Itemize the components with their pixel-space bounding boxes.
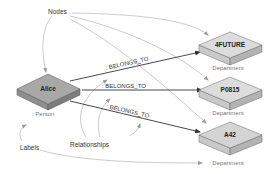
pointer-nodes-a42: [70, 19, 206, 123]
pointer-nodes-alice: [43, 16, 52, 72]
edge-alice-4future: [70, 52, 200, 81]
node-label-department: : Department: [209, 160, 244, 166]
annotation-nodes: Nodes: [48, 8, 68, 15]
node-p0815[interactable]: P0815: [199, 77, 262, 110]
graph-model-diagram: : BELONGS_TO : BELONGS_TO : BELONGS_TO A…: [0, 0, 277, 174]
annotation-relationships: Relationships: [70, 141, 110, 149]
node-label-department: : Department: [209, 110, 244, 116]
node-a42[interactable]: A42: [199, 122, 262, 155]
node-name: A42: [224, 131, 236, 138]
relationship-type-label: : BELONGS_TO: [102, 83, 146, 89]
node-name: 4FUTURE: [215, 41, 246, 48]
labels-pointers: [20, 125, 202, 163]
pointer-labels-department: [40, 150, 202, 163]
node-name: Alice: [40, 85, 56, 92]
pointer-rel-3: [129, 124, 140, 136]
node-alice[interactable]: Alice: [17, 74, 80, 110]
edge-alice-a42: [70, 101, 200, 132]
pointer-nodes-p0815: [70, 16, 208, 80]
node-name: P0815: [221, 86, 240, 93]
node-label-person: : Person: [32, 111, 54, 117]
pointer-labels-person: [20, 125, 26, 141]
annotation-labels: Labels: [20, 144, 40, 151]
node-label-department: : Department: [209, 65, 244, 71]
node-4future[interactable]: 4FUTURE: [199, 32, 262, 65]
